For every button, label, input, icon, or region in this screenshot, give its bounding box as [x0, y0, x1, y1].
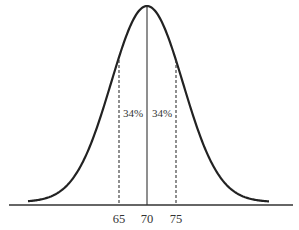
- right-percent-label: 34%: [152, 107, 172, 119]
- left-percent-label: 34%: [123, 107, 143, 119]
- tick-label-65: 65: [113, 212, 126, 226]
- tick-label-75: 75: [170, 212, 183, 226]
- tick-label-70: 70: [141, 212, 154, 226]
- bell-curve-chart: 34% 34% 65 70 75: [0, 0, 299, 230]
- normal-curve: [28, 6, 269, 201]
